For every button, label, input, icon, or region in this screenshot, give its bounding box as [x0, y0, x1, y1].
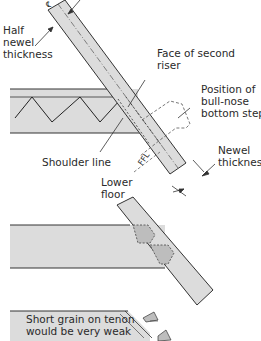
upper-newel [48, 0, 186, 174]
label-bullnose-1: Position of [201, 83, 256, 95]
label-bullnose-2: bull-nose [201, 95, 249, 107]
label-half-newel-1: Half [3, 24, 24, 36]
newel-joint-diagram: ℄ Half newel thickness Face of second ri… [0, 0, 261, 341]
label-lower-floor-2: floor [101, 188, 125, 200]
label-half-newel-2: newel [3, 36, 34, 48]
label-ffl: FFL [136, 150, 152, 167]
label-face-riser-2: riser [157, 59, 181, 71]
label-short-grain-2: would be very weak [26, 325, 132, 337]
centre-line-symbol: ℄ [46, 0, 52, 9]
label-half-newel-3: thickness [3, 48, 53, 60]
label-face-riser-1: Face of second [157, 47, 235, 59]
label-bullnose-3: bottom step [201, 107, 261, 119]
label-shoulder-line: Shoulder line [42, 156, 111, 168]
label-lower-floor-1: Lower [101, 176, 133, 188]
label-newel-thickness-2: thickness [218, 156, 261, 168]
label-newel-thickness-1: Newel [218, 144, 250, 156]
label-short-grain-1: Short grain on tenon [26, 313, 135, 325]
